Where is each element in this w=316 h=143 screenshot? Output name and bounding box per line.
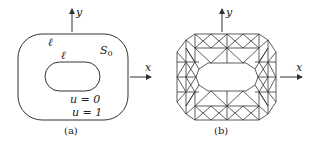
outer-boundary-label: ℓ	[48, 36, 53, 49]
region-label: S0	[100, 44, 113, 58]
figure-a: y x ℓ ℓ S0 u = 0 u = 1 (a)	[18, 6, 152, 136]
x-axis-label: x	[145, 61, 152, 74]
caption-b: (b)	[214, 125, 228, 136]
inner-condition: u = 0	[70, 93, 100, 106]
triangular-mesh	[177, 34, 276, 120]
outer-condition: u = 1	[72, 106, 102, 119]
y-axis-label: y	[75, 6, 83, 19]
caption-a: (a)	[64, 125, 78, 136]
inner-boundary	[45, 62, 100, 91]
inner-boundary-label: ℓ	[61, 49, 66, 62]
x-axis-label: x	[296, 61, 303, 74]
figure-b: y x	[177, 6, 303, 136]
figure-canvas: y x ℓ ℓ S0 u = 0 u = 1 (a) y x	[0, 0, 316, 143]
y-axis-label: y	[225, 6, 233, 19]
